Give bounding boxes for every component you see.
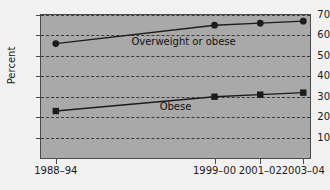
- x-tick-label-2: 2001–02: [239, 166, 282, 176]
- data-point-0-1: [211, 22, 218, 29]
- plot-area: Overweight or obeseObese: [40, 14, 311, 159]
- data-point-1-2: [257, 91, 263, 97]
- series-label-1: Obese: [160, 100, 192, 111]
- x-tick-mark-3: [303, 159, 304, 164]
- data-point-1-3: [300, 89, 306, 95]
- y-axis-title: Percent: [6, 31, 17, 101]
- data-point-1-0: [53, 108, 59, 114]
- data-point-0-3: [300, 18, 307, 25]
- data-point-1-1: [211, 94, 217, 100]
- series-label-0: Overweight or obese: [131, 35, 235, 46]
- x-tick-label-0: 1988–94: [34, 166, 77, 176]
- data-point-0-0: [52, 40, 59, 47]
- x-tick-label-1: 1999–00: [193, 166, 236, 176]
- data-point-0-2: [257, 20, 264, 27]
- x-tick-mark-2: [260, 159, 261, 164]
- x-tick-mark-1: [215, 159, 216, 164]
- x-tick-label-3: 2003–04: [282, 166, 325, 176]
- chart-container: Percent 10203040506070 1988–941999–00200…: [0, 0, 330, 190]
- x-tick-mark-0: [56, 159, 57, 164]
